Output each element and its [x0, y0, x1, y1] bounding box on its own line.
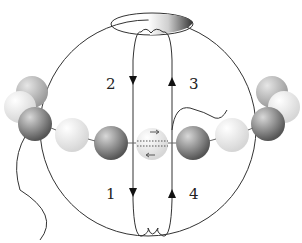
arrow-down-icon — [129, 76, 137, 85]
arrow-down-icon — [129, 188, 137, 197]
bead — [215, 118, 249, 152]
bead — [176, 126, 210, 160]
label-2: 2 — [106, 75, 116, 93]
bead — [251, 107, 285, 141]
bead — [94, 126, 128, 160]
arrow-up-icon — [168, 77, 176, 86]
label-4: 4 — [189, 185, 199, 203]
spindle-diagram: 2 3 1 4 — [0, 0, 302, 243]
pole-shading — [148, 14, 193, 35]
label-3: 3 — [189, 75, 199, 93]
arrow-up-icon — [168, 189, 176, 198]
bead — [55, 118, 89, 152]
label-1: 1 — [106, 185, 116, 203]
bead — [18, 107, 52, 141]
